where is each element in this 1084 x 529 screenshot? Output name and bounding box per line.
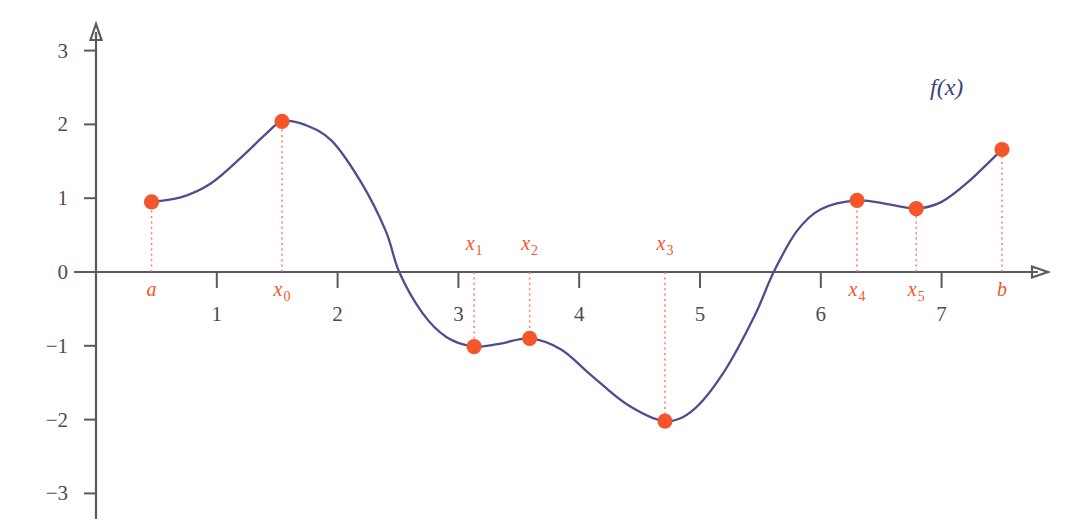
data-point-marker[interactable] <box>909 201 924 216</box>
point-label-subscript: 5 <box>918 289 925 304</box>
y-tick-label: −3 <box>46 481 68 505</box>
point-label-x5: x5 <box>907 278 925 304</box>
function-plot-figure: 3210−1−2−3 1234567 ax0x1x2x3x4x5b f(x) <box>0 0 1084 529</box>
data-point-marker[interactable] <box>849 193 864 208</box>
point-label-base: x <box>520 232 530 254</box>
point-label-x1: x1 <box>465 232 483 258</box>
data-point-marker[interactable] <box>657 413 672 428</box>
y-tick-label: 2 <box>58 112 69 136</box>
point-label-a: a <box>147 278 157 300</box>
point-label-base: x <box>273 278 283 300</box>
x-tick-label: 6 <box>816 302 827 326</box>
x-axis: 1234567 <box>74 267 1048 327</box>
point-label-x4: x4 <box>848 278 866 304</box>
x-tick-label: 4 <box>574 302 585 326</box>
data-point-marker[interactable] <box>274 114 289 129</box>
data-point-marker[interactable] <box>994 142 1009 157</box>
x-tick-group: 1234567 <box>212 272 947 326</box>
y-tick-label: 3 <box>58 39 69 63</box>
point-label-x0: x0 <box>273 278 291 304</box>
point-label-base: b <box>997 278 1007 300</box>
data-point-marker[interactable] <box>144 194 159 209</box>
point-label-base: x <box>656 232 666 254</box>
point-label-base: x <box>848 278 858 300</box>
point-label-subscript: 0 <box>283 289 290 304</box>
x-tick-label: 1 <box>212 302 223 326</box>
point-label-base: a <box>147 278 157 300</box>
x-tick-label: 3 <box>453 302 464 326</box>
data-point-marker[interactable] <box>522 331 537 346</box>
x-tick-label: 5 <box>695 302 706 326</box>
point-label-subscript: 1 <box>476 243 483 258</box>
point-label-subscript: 3 <box>666 243 673 258</box>
point-label-subscript: 2 <box>531 243 538 258</box>
y-tick-label: 0 <box>58 260 69 284</box>
point-label-x3: x3 <box>656 232 674 258</box>
y-tick-label: −1 <box>46 334 68 358</box>
point-label-base: x <box>465 232 475 254</box>
point-label-x2: x2 <box>520 232 538 258</box>
x-tick-label: 7 <box>936 302 947 326</box>
point-label-base: x <box>907 278 917 300</box>
point-label-group: ax0x1x2x3x4x5b <box>147 232 1007 304</box>
point-label-b: b <box>997 278 1007 300</box>
y-tick-label: 1 <box>58 186 69 210</box>
x-tick-label: 2 <box>332 302 343 326</box>
plot-canvas: 3210−1−2−3 1234567 ax0x1x2x3x4x5b f(x) <box>0 0 1084 529</box>
point-label-subscript: 4 <box>858 289 865 304</box>
y-tick-label: −2 <box>46 408 68 432</box>
function-name-label: f(x) <box>930 74 963 100</box>
data-point-marker[interactable] <box>467 339 482 354</box>
